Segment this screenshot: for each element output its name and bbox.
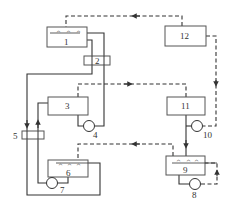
- svg-text:10: 10: [203, 130, 213, 140]
- line-7-to-3: [38, 103, 48, 183]
- svg-text:^: ^: [56, 29, 61, 36]
- line-9-to-8: [179, 175, 189, 184]
- component-9: ^^^ 9: [166, 156, 217, 175]
- svg-text:12: 12: [180, 31, 189, 41]
- dashed-line-3-to-11: [78, 84, 186, 97]
- pump-10: 10: [192, 121, 213, 141]
- svg-text:^: ^: [76, 29, 81, 36]
- svg-text:5: 5: [13, 131, 18, 141]
- svg-text:^: ^: [186, 158, 191, 165]
- dashed-line-9-to-6: [78, 144, 173, 160]
- svg-text:3: 3: [65, 101, 70, 111]
- pump-7: 7: [47, 178, 66, 196]
- svg-text:11: 11: [181, 101, 190, 111]
- component-11: 11: [167, 97, 205, 115]
- svg-text:6: 6: [66, 168, 71, 178]
- svg-text:^: ^: [194, 158, 199, 165]
- component-12: 12: [165, 26, 206, 46]
- line-3-to-4: [78, 115, 83, 126]
- svg-text:^: ^: [176, 158, 181, 165]
- component-6: ^^^ 6: [48, 160, 88, 178]
- process-diagram: ^^^ 1 2 12 3 11 5 ^^^ 6 ^^^ 9: [0, 0, 235, 212]
- pump-8: 8: [190, 179, 201, 201]
- component-3: 3: [48, 97, 88, 115]
- component-1: ^^^ 1: [47, 27, 87, 47]
- svg-text:^: ^: [66, 29, 71, 36]
- component-2: 2: [84, 56, 110, 66]
- svg-text:8: 8: [192, 190, 197, 200]
- svg-text:9: 9: [183, 165, 188, 175]
- svg-text:1: 1: [64, 37, 69, 47]
- svg-text:4: 4: [93, 130, 98, 140]
- component-5: 5: [13, 131, 44, 141]
- svg-text:2: 2: [95, 56, 100, 66]
- pump-4: 4: [84, 121, 99, 141]
- svg-text:7: 7: [60, 185, 65, 195]
- dashed-line-12-to-1: [66, 16, 182, 27]
